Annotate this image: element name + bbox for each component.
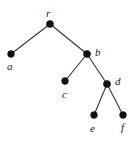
tree-node-label-r: r [46,8,50,19]
tree-node-r [46,20,53,27]
tree-node-b [83,50,90,57]
tree-node-label-e: e [90,123,95,134]
tree-node-label-c: c [62,89,67,100]
node-layer [8,20,127,118]
tree-node-c [62,78,69,85]
tree-node-label-f: f [121,122,124,133]
tree-edge-d-f [107,84,123,115]
tree-node-label-b: b [95,47,101,58]
tree-node-e [91,112,98,119]
edge-layer [11,24,123,115]
tree-edge-b-d [87,54,107,84]
tree-edge-r-a [11,24,50,54]
tree-node-label-d: d [115,76,121,87]
tree-node-label-a: a [7,61,13,72]
tree-edge-b-c [65,54,87,81]
tree-graphics [0,0,137,143]
rooted-tree-figure: rabcdef [0,0,137,143]
tree-node-d [103,80,110,87]
tree-edge-d-e [94,84,107,115]
tree-edge-r-b [50,24,87,54]
tree-node-a [8,51,15,58]
tree-node-f [120,112,127,119]
